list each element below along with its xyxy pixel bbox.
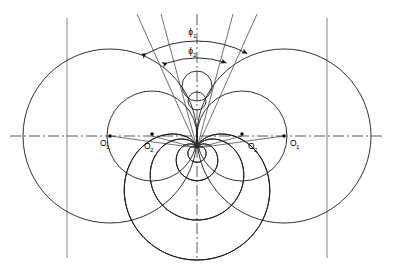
label-phi2: ϕ 2 — [188, 46, 197, 58]
o1-right-subscript: 1 — [296, 143, 300, 150]
chord-to-o1-right — [197, 136, 284, 148]
chord-to-o2-right — [197, 136, 242, 148]
phi2-subscript: 2 — [193, 51, 197, 58]
label-phi1: ϕ 1 — [188, 27, 197, 39]
label-o1-left: O 1 — [100, 138, 110, 150]
o2-left-subscript: 2 — [150, 146, 154, 153]
radial-ray-inner-right — [197, 14, 233, 148]
chord-to-o1-left — [110, 136, 197, 148]
technical-diagram: ϕ 1 ϕ 2 O 1 O 2 O 2 O 1 — [0, 0, 395, 266]
center-dot-o2-right — [240, 132, 243, 135]
o1-left-subscript: 1 — [106, 143, 110, 150]
center-dot-o2-left — [150, 132, 153, 135]
radial-ray-outer-right — [197, 14, 257, 148]
o2-right-subscript: 2 — [254, 146, 258, 153]
center-dot-o1-right — [282, 134, 285, 137]
phi1-subscript: 1 — [193, 32, 197, 39]
center-dot-o1-left — [108, 134, 111, 137]
chord-to-o2-left — [152, 136, 197, 148]
label-o2-left: O 2 — [144, 141, 154, 153]
label-o1-right: O 1 — [290, 138, 300, 150]
label-o2-right: O 2 — [248, 141, 258, 153]
